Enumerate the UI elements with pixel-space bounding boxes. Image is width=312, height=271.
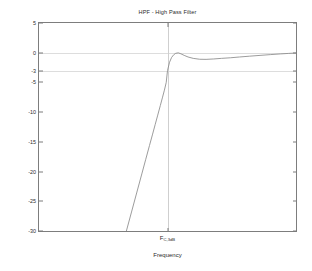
ytick-label-minus30: -30	[28, 228, 36, 234]
ytick-label-minus20: -20	[28, 169, 36, 175]
xtick-label-cutoff: FC,3dB	[160, 235, 175, 241]
plot-area: 5 0 -3 -5 -10 -15 -20 -25 -30 FC,3dB	[38, 22, 297, 232]
ytick-label-minus25: -25	[28, 198, 36, 204]
ytick-label-minus3: -3	[31, 68, 36, 74]
ytick-label-minus5: -5	[31, 79, 36, 85]
response-curve	[39, 23, 296, 231]
response-curve-path	[126, 53, 296, 231]
x-axis-label: Frequency	[38, 252, 297, 258]
xtick-label-cutoff-sub: C,3dB	[164, 237, 176, 242]
ytick-label-0: 0	[33, 50, 36, 56]
ytick-label-minus10: -10	[28, 109, 36, 115]
figure-canvas: HPF - High Pass Filter 5 0 -3 -5 -10 -15…	[0, 0, 312, 271]
ytick-label-5: 5	[33, 20, 36, 26]
chart-title: HPF - High Pass Filter	[38, 9, 297, 15]
ytick-label-minus15: -15	[28, 139, 36, 145]
